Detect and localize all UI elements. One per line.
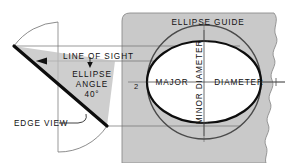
- arc-upper: [14, 22, 58, 46]
- edge-view-leader-curve: [78, 114, 86, 123]
- minor-diameter-label: MINOR DIAMETER: [195, 40, 204, 124]
- technical-drawing-canvas: ELLIPSE GUIDE LINE OF SIGHT ELLIPSE ANGL…: [0, 0, 295, 163]
- line-of-sight-label: LINE OF SIGHT: [63, 52, 134, 61]
- ellipse-angle-label-line1: ELLIPSE: [72, 70, 112, 79]
- ellipse-angle-label-line2: ANGLE: [76, 80, 108, 89]
- ellipse-angle-value-label: 40°: [84, 90, 99, 99]
- major-label: MAJOR: [155, 78, 188, 87]
- arc-lower: [58, 126, 107, 152]
- diameter-label: DIAMETER: [214, 78, 264, 87]
- ellipse-guide-figure: ELLIPSE GUIDE LINE OF SIGHT ELLIPSE ANGL…: [0, 0, 295, 163]
- ellipse-guide-label: ELLIPSE GUIDE: [171, 18, 244, 27]
- edge-view-label: EDGE VIEW: [14, 119, 69, 128]
- marker-two-label: 2: [134, 82, 139, 91]
